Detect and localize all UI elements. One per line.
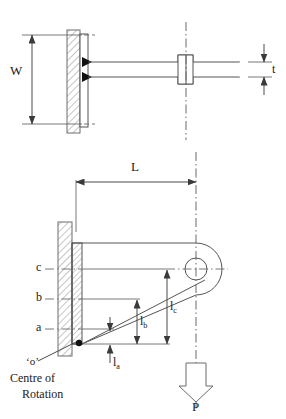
load-label-P: P	[192, 400, 199, 415]
la-dimension-label: la	[113, 356, 120, 372]
rotation-point-label: ‘o’	[26, 355, 39, 368]
rotation-caption-line1: Centre of	[10, 372, 55, 386]
lb-dimension-label: lb	[140, 315, 147, 331]
weld-row-label-c: c	[36, 261, 41, 275]
length-dimension-label: L	[131, 160, 139, 175]
weld-row-label-a: a	[36, 321, 41, 335]
top-view-group	[22, 22, 272, 140]
figure-canvas: W t L c b a la lb lc ‘o’ Centre of Rotat…	[0, 0, 286, 419]
lb-subscript: b	[143, 321, 147, 330]
lc-subscript: c	[173, 306, 177, 315]
load-arrow-P	[179, 363, 213, 402]
top-view-shaft-outline	[88, 55, 240, 84]
thickness-dimension-label: t	[272, 63, 275, 77]
side-view-group	[38, 152, 228, 410]
side-view-wall-hatch	[58, 222, 72, 356]
top-view-wall-hatch	[67, 30, 80, 133]
la-subscript: a	[116, 362, 120, 371]
lc-dimension-label: lc	[170, 300, 177, 316]
rotation-caption-line2: Rotation	[22, 388, 63, 402]
width-dimension-label: W	[10, 64, 22, 79]
rotation-point-marker	[76, 340, 82, 346]
side-view-taper-edge	[82, 280, 205, 344]
weld-row-label-b: b	[36, 291, 42, 305]
engineering-drawing-svg	[0, 0, 286, 419]
